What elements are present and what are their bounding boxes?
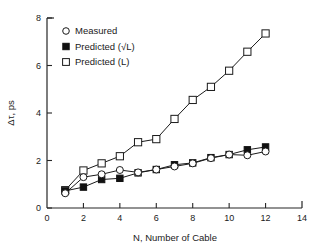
y-axis-tick-label: 4 (36, 108, 41, 118)
data-point-3-2 (80, 167, 87, 174)
data-point-3-12 (262, 30, 269, 37)
data-point-1-8 (189, 160, 196, 167)
x-axis-tick-label: 2 (81, 213, 86, 223)
data-point-1-10 (226, 151, 233, 158)
line-chart: 02468 02468101214 Δτ, ps N, Number of Ca… (0, 0, 325, 248)
data-point-1-11 (244, 152, 251, 159)
data-point-3-6 (153, 136, 160, 143)
x-axis-tick-label: 0 (44, 213, 49, 223)
legend-marker-filled-square-icon (63, 43, 69, 49)
legend-label: Measured (75, 25, 117, 36)
data-point-2-4 (117, 175, 123, 181)
chart-legend: MeasuredPredicted (√L)Predicted (L) (63, 25, 135, 67)
data-point-3-3 (98, 160, 105, 167)
legend-label: Predicted (√L) (75, 41, 135, 52)
y-axis-ticks (47, 18, 52, 208)
data-point-1-6 (153, 166, 160, 173)
data-point-1-3 (98, 171, 105, 178)
series-1 (65, 151, 265, 193)
series-line-1 (65, 151, 265, 193)
y-axis-tick-label: 6 (36, 61, 41, 71)
x-axis-tick-label: 10 (224, 213, 234, 223)
data-point-1-12 (262, 148, 269, 155)
data-point-1-7 (171, 163, 178, 170)
data-point-3-11 (244, 48, 251, 55)
data-point-1-5 (135, 169, 142, 176)
data-point-2-2 (80, 184, 86, 190)
x-axis-tick-label: 4 (117, 213, 122, 223)
data-point-1-9 (207, 155, 214, 162)
x-axis-title: N, Number of Cable (133, 232, 217, 243)
data-point-1-2 (80, 174, 87, 181)
data-point-3-5 (134, 139, 141, 146)
y-axis-tick-label: 8 (36, 13, 41, 23)
x-axis-tick-label: 8 (190, 213, 195, 223)
data-point-3-8 (189, 96, 196, 103)
legend-marker-open-square-icon (63, 59, 70, 66)
legend-entry-1[interactable]: Measured (63, 25, 118, 36)
y-axis-tick-labels: 02468 (36, 13, 41, 213)
x-axis-ticks (83, 203, 265, 208)
legend-entry-3[interactable]: Predicted (L) (63, 56, 130, 67)
series-line-2 (65, 147, 265, 191)
series-markers-2 (62, 144, 269, 194)
data-point-3-7 (171, 115, 178, 122)
x-axis-tick-label: 14 (297, 213, 307, 223)
series-markers-3 (62, 30, 270, 194)
x-axis-tick-label: 6 (154, 213, 159, 223)
y-axis-tick-label: 2 (36, 156, 41, 166)
x-axis-tick-label: 12 (261, 213, 271, 223)
data-series-layer (62, 30, 270, 197)
data-point-3-9 (207, 83, 214, 90)
legend-label: Predicted (L) (75, 56, 129, 67)
legend-marker-open-circle-icon (63, 28, 70, 35)
x-axis-tick-labels: 02468101214 (44, 213, 307, 223)
data-point-3-4 (116, 153, 123, 160)
series-2 (65, 147, 265, 191)
y-axis-title: Δτ, ps (5, 100, 16, 126)
data-point-1-4 (116, 167, 123, 174)
y-axis-tick-label: 0 (36, 203, 41, 213)
chart-figure: 02468 02468101214 Δτ, ps N, Number of Ca… (0, 0, 325, 248)
legend-entry-2[interactable]: Predicted (√L) (63, 41, 135, 52)
data-point-3-10 (226, 67, 233, 74)
data-point-1-1 (62, 190, 69, 197)
